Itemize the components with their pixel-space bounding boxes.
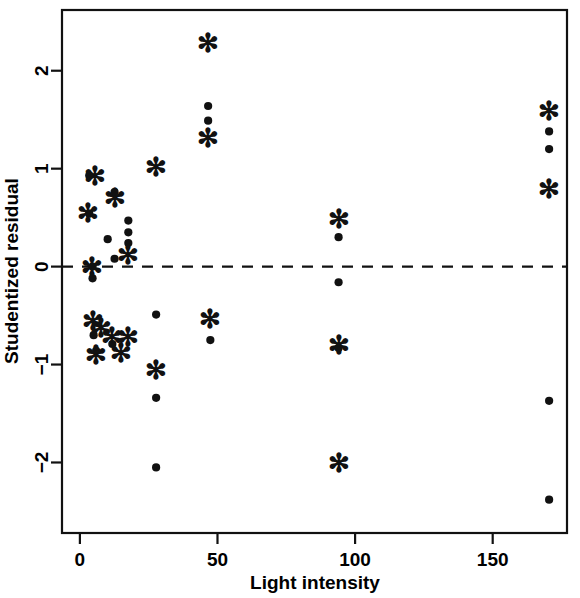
scatter-plot-figure: 050100150 210−1−2 ✻✻✻✻✻✻✻✻✻✻✻✻✻✻✻✻✻✻✻✻✻ …	[0, 0, 580, 598]
data-point-dot-15	[152, 463, 160, 471]
data-point-star-14: ✻	[197, 123, 219, 153]
data-point-dot-6	[104, 235, 112, 243]
data-point-star-18: ✻	[328, 448, 350, 478]
data-point-star-12: ✻	[145, 355, 167, 385]
y-tick-label-2: 0	[32, 261, 53, 272]
data-point-star-9: ✻	[117, 240, 139, 270]
data-point-dot-22	[545, 127, 553, 135]
data-point-dot-16	[204, 102, 212, 110]
data-point-star-6: ✻	[104, 183, 126, 213]
data-point-star-2: ✻	[81, 252, 103, 282]
plot-background	[0, 0, 580, 598]
x-tick-label-1: 50	[207, 549, 228, 570]
studentized-residual-scatter-plot: 050100150 210−1−2 ✻✻✻✻✻✻✻✻✻✻✻✻✻✻✻✻✻✻✻✻✻ …	[0, 0, 580, 598]
y-tick-label-3: −1	[32, 353, 53, 375]
data-point-star-11: ✻	[145, 152, 167, 182]
data-point-dot-14	[152, 394, 160, 402]
data-point-dot-24	[545, 397, 553, 405]
x-tick-label-3: 150	[477, 549, 509, 570]
data-point-dot-19	[334, 233, 342, 241]
data-point-dot-10	[124, 216, 132, 224]
data-point-dot-18	[206, 336, 214, 344]
data-point-star-17: ✻	[328, 330, 350, 360]
data-point-star-10: ✻	[117, 322, 139, 352]
data-point-star-13: ✻	[197, 28, 219, 58]
x-axis-title: Light intensity	[250, 572, 380, 593]
data-point-dot-23	[545, 145, 553, 153]
data-point-star-16: ✻	[328, 204, 350, 234]
y-tick-label-1: 1	[32, 163, 53, 174]
data-point-star-15: ✻	[199, 304, 221, 334]
data-point-dot-25	[545, 496, 553, 504]
y-tick-label-0: 2	[32, 65, 53, 76]
x-tick-label-2: 100	[339, 549, 371, 570]
x-tick-label-0: 0	[75, 549, 86, 570]
data-point-dot-20	[334, 278, 342, 286]
data-point-dot-11	[124, 228, 132, 236]
data-point-star-20: ✻	[538, 174, 560, 204]
data-point-star-1: ✻	[77, 198, 99, 228]
data-point-dot-13	[152, 310, 160, 318]
y-tick-label-4: −2	[32, 452, 53, 474]
data-point-star-19: ✻	[538, 96, 560, 126]
y-axis-title: Studentized residual	[1, 178, 22, 364]
